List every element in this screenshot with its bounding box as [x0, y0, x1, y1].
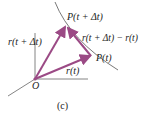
vector-r-t-dt [35, 27, 65, 79]
label-origin: O [32, 81, 39, 91]
label-p-t-dt: P(t + Δt) [67, 12, 103, 22]
vector-r-t [35, 56, 90, 79]
label-r-t: r(t) [66, 66, 79, 76]
label-p-t: P(t) [96, 53, 112, 63]
caption: (c) [57, 101, 68, 111]
label-r-t-dt: r(t + Δt) [8, 37, 42, 47]
label-diff: r(t + Δt) − r(t) [82, 34, 138, 44]
x-axis [8, 79, 35, 96]
